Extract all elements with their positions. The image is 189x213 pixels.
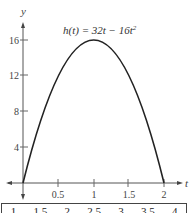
y-axis-arrow-up-icon [21,22,25,28]
x-axis-arrow-right-icon [177,181,183,185]
svg-text:16: 16 [9,35,19,46]
x-axis-arrow-left-icon [6,181,12,185]
table-cell: 4 [172,204,178,213]
y-axis-arrow-down-icon [21,194,25,200]
y-ticks [20,40,28,147]
svg-text:12: 12 [9,70,19,81]
function-curve [23,40,164,183]
table-cell: 1.5 [33,204,47,213]
y-axis-label: y [20,5,26,17]
table-cell: 3.5 [141,204,155,213]
table-cell: 2.5 [87,204,101,213]
svg-text:0.5: 0.5 [52,189,65,200]
y-tick-labels: 4 8 12 16 [9,35,19,153]
x-axis-label: t [185,177,189,189]
chart: y t 4 8 12 16 0.5 1 1.5 2 h(t) = 32t − 1… [0,0,189,203]
table-cell: 1 [11,204,17,213]
function-label: h(t) = 32t − 16t2 [63,24,137,37]
table-cell: 3 [118,204,124,213]
svg-text:2: 2 [162,189,167,200]
svg-text:1.5: 1.5 [123,189,136,200]
table-partial-row: 1 1.5 2 2.5 3 3.5 4 [1,203,187,213]
table-cell: 2 [64,204,70,213]
svg-text:1: 1 [92,189,97,200]
svg-text:8: 8 [14,106,19,117]
x-tick-labels: 0.5 1 1.5 2 [52,189,167,200]
svg-text:4: 4 [14,142,19,153]
